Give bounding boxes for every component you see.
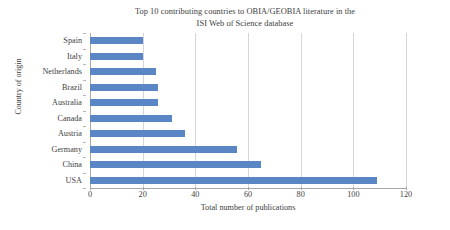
y-tick-label-netherlands: Netherlands (0, 67, 82, 76)
x-tick-label-40: 40 (191, 190, 199, 199)
chart-title-line-1: Top 10 contributing countries to OBIA/GE… (95, 6, 395, 18)
y-tick-mark (83, 95, 86, 96)
x-tick-label-80: 80 (297, 190, 305, 199)
y-tick-label-usa: USA (0, 176, 82, 185)
y-tick-mark (83, 111, 86, 112)
bar-row (90, 80, 406, 96)
bar-germany (90, 146, 237, 153)
y-tick-mark (83, 80, 86, 81)
bar-row (90, 64, 406, 80)
y-tick-label-australia: Australia (0, 98, 82, 107)
bar-row (90, 95, 406, 111)
plot-area (90, 33, 406, 188)
y-axis-tick-labels: SpainItalyNetherlandsBrazilAustraliaCana… (0, 33, 86, 188)
bar-italy (90, 53, 143, 60)
bar-canada (90, 115, 172, 122)
x-tick-mark (248, 187, 249, 190)
x-tick-mark (353, 187, 354, 190)
y-tick-mark (83, 64, 86, 65)
bar-row (90, 173, 406, 189)
x-tick-label-0: 0 (88, 190, 92, 199)
y-tick-mark (83, 173, 86, 174)
y-tick-label-austria: Austria (0, 129, 82, 138)
gridline (406, 33, 407, 188)
x-tick-mark (406, 187, 407, 190)
y-tick-mark (83, 126, 86, 127)
bar-austria (90, 130, 185, 137)
chart-title: Top 10 contributing countries to OBIA/GE… (95, 6, 395, 29)
y-tick-mark (83, 142, 86, 143)
y-tick-label-canada: Canada (0, 114, 82, 123)
bar-row (90, 157, 406, 173)
x-tick-mark (301, 187, 302, 190)
y-tick-label-spain: Spain (0, 36, 82, 45)
bar-row (90, 33, 406, 49)
bar-series (90, 33, 406, 188)
y-tick-label-brazil: Brazil (0, 83, 82, 92)
chart-title-line-2: ISI Web of Science database (95, 18, 395, 30)
bar-spain (90, 37, 143, 44)
x-tick-mark (195, 187, 196, 190)
chart-container: Top 10 contributing countries to OBIA/GE… (0, 0, 450, 230)
bar-china (90, 161, 261, 168)
y-tick-label-italy: Italy (0, 52, 82, 61)
x-axis-title: Total number of publications (90, 203, 406, 212)
x-tick-label-100: 100 (347, 190, 359, 199)
bar-row (90, 142, 406, 158)
y-tick-label-china: China (0, 160, 82, 169)
bar-row (90, 49, 406, 65)
x-tick-mark (90, 187, 91, 190)
bar-brazil (90, 84, 158, 91)
bar-row (90, 111, 406, 127)
x-axis-tick-labels: 020406080100120 (90, 190, 406, 204)
y-tick-mark (83, 33, 86, 34)
y-tick-mark (83, 157, 86, 158)
bar-netherlands (90, 68, 156, 75)
x-tick-label-60: 60 (244, 190, 252, 199)
bar-australia (90, 99, 158, 106)
x-tick-label-120: 120 (400, 190, 412, 199)
bar-row (90, 126, 406, 142)
x-tick-label-20: 20 (139, 190, 147, 199)
y-tick-label-germany: Germany (0, 145, 82, 154)
bar-usa (90, 177, 377, 184)
y-tick-mark (83, 49, 86, 50)
y-tick-mark (83, 188, 86, 189)
x-tick-mark (143, 187, 144, 190)
